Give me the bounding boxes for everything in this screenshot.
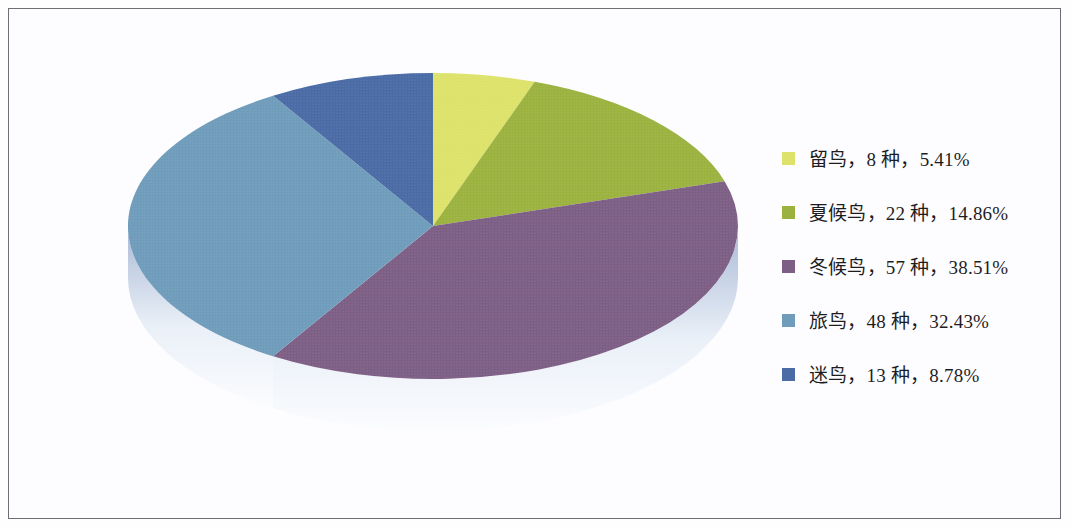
legend-swatch-icon — [782, 152, 795, 165]
legend-swatch-icon — [782, 368, 795, 381]
pie-texture-overlay — [128, 73, 738, 379]
chart-page: 留鸟，8 种，5.41% 夏候鸟，22 种，14.86% 冬候鸟，57 种，38… — [0, 0, 1071, 529]
legend-swatch-icon — [782, 260, 795, 273]
legend-item-mianiao[interactable]: 迷鸟，13 种，8.78% — [782, 346, 1062, 400]
legend-swatch-icon — [782, 314, 795, 327]
legend-item-label: 夏候鸟，22 种，14.86% — [809, 198, 1008, 225]
legend-item-label: 留鸟，8 种，5.41% — [809, 144, 970, 171]
legend-swatch-icon — [782, 206, 795, 219]
legend-item-label: 迷鸟，13 种，8.78% — [809, 360, 979, 387]
legend-item-liuniao[interactable]: 留鸟，8 种，5.41% — [782, 130, 1062, 184]
legend-item-lvniao[interactable]: 旅鸟，48 种，32.43% — [782, 292, 1062, 346]
legend-item-label: 旅鸟，48 种，32.43% — [809, 306, 989, 333]
legend-item-xiahouniao[interactable]: 夏候鸟，22 种，14.86% — [782, 184, 1062, 238]
pie-slices — [128, 73, 738, 379]
legend-item-donghouniao[interactable]: 冬候鸟，57 种，38.51% — [782, 238, 1062, 292]
chart-legend: 留鸟，8 种，5.41% 夏候鸟，22 种，14.86% 冬候鸟，57 种，38… — [782, 130, 1062, 400]
pie-chart-svg — [96, 46, 776, 466]
pie-chart-figure: 留鸟，8 种，5.41% 夏候鸟，22 种，14.86% 冬候鸟，57 种，38… — [0, 0, 1071, 529]
legend-item-label: 冬候鸟，57 种，38.51% — [809, 252, 1008, 279]
